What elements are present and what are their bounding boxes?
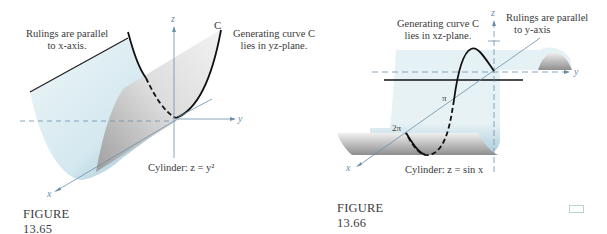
rulings-line2: to y-axis	[506, 24, 588, 36]
curve-c-label: C	[214, 19, 221, 31]
z-axis-label: z	[171, 13, 175, 24]
curve-line1: Generating curve C	[388, 18, 488, 30]
equation-label: Cylinder: z = sin x	[405, 164, 483, 176]
z-axis-label: z	[491, 7, 495, 18]
small-rectangle-marker	[569, 205, 584, 213]
figure-caption: FIGURE 13.65	[23, 207, 69, 234]
rulings-line1: Rulings are parallel	[26, 28, 108, 40]
y-axis-label: y	[574, 66, 578, 77]
generating-curve-annotation: Generating curve C lies in xz-plane.	[388, 18, 488, 42]
rulings-line2: to x-axis.	[26, 40, 108, 52]
x-axis-label: x	[346, 162, 350, 173]
pi-tick-label: π	[442, 92, 447, 104]
equation-label: Cylinder: z = y²	[148, 162, 215, 174]
x-axis-label: x	[47, 188, 51, 199]
curve-line2: lies in xz-plane.	[388, 30, 488, 42]
y-axis-label: y	[238, 113, 242, 124]
rulings-annotation: Rulings are parallel to y-axis	[506, 12, 588, 36]
figure-caption: FIGURE 13.66	[337, 201, 383, 231]
rulings-annotation: Rulings are parallel to x-axis.	[26, 28, 108, 52]
rulings-line1: Rulings are parallel	[506, 12, 588, 24]
two-pi-tick-label: 2π	[392, 122, 401, 134]
